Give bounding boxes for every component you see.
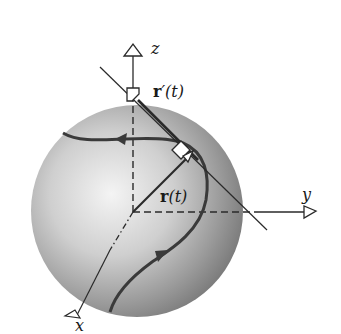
r-label: r(t)	[160, 187, 187, 206]
y-arrowhead-icon	[304, 206, 316, 218]
sphere-curve-diagram: z y x r′(t) r(t)	[0, 0, 341, 334]
z-arrowhead-icon	[124, 44, 142, 56]
x-axis-label: x	[75, 316, 84, 334]
z-axis-label: z	[150, 39, 160, 58]
r-prime-arrowhead-icon	[127, 88, 139, 101]
y-axis-label: y	[301, 185, 312, 204]
r-prime-label: r′(t)	[153, 82, 184, 101]
sphere	[31, 105, 243, 317]
